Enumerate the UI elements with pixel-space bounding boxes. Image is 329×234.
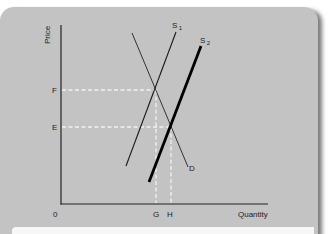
x-label-h: H [167,210,173,219]
label-s2: S2 [200,36,211,46]
x-label-g: G [153,210,159,219]
label-s1: S1 [172,21,183,31]
origin-label: 0 [53,210,58,219]
y-label-f: F [52,86,57,95]
y-axis-title: Price [43,25,52,44]
x-axis-title: Quantity [238,210,268,219]
label-d: D [189,164,195,173]
equilibrium-guides [62,90,172,203]
supply-curve-s1 [126,32,176,166]
supply-curve-s2 [149,46,201,182]
y-label-e: E [52,123,57,132]
supply-demand-chart: S1 S2 D F E 0 G H Quantity Price [0,0,329,234]
